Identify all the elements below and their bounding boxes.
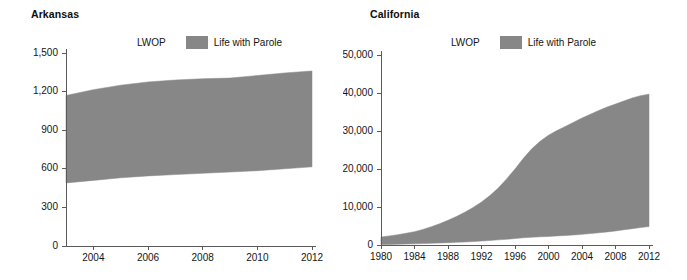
y-tick-label: 0: [367, 239, 373, 250]
x-tick-label: 2010: [246, 252, 269, 263]
chart-panel-california: California LWOP Life with Parole 010,000…: [343, 0, 687, 280]
chart-svg-arkansas: 03006009001,2001,50020042006200820102012: [0, 0, 343, 280]
y-tick-label: 20,000: [343, 163, 373, 174]
area-band-life-with-parole: [66, 71, 312, 183]
x-tick-label: 2000: [537, 251, 560, 262]
x-tick-label: 1988: [437, 251, 460, 262]
y-tick-label: 1,500: [33, 47, 58, 58]
plot-area-arkansas: 03006009001,2001,50020042006200820102012: [0, 0, 343, 280]
figure-root: Arkansas LWOP Life with Parole 030060090…: [0, 0, 687, 280]
x-tick-label: 2004: [571, 251, 594, 262]
y-tick-label: 40,000: [343, 87, 373, 98]
chart-svg-california: 010,00020,00030,00040,00050,000198019841…: [343, 0, 687, 280]
x-tick-label: 2012: [638, 251, 661, 262]
y-tick-label: 900: [41, 124, 58, 135]
y-tick-label: 10,000: [343, 201, 373, 212]
y-tick-label: 300: [41, 201, 58, 212]
area-band-life-with-parole: [381, 94, 649, 244]
x-tick-label: 1996: [504, 251, 527, 262]
x-tick-label: 1980: [370, 251, 393, 262]
y-tick-label: 0: [52, 240, 58, 251]
y-tick-label: 30,000: [343, 125, 373, 136]
x-tick-label: 2006: [137, 252, 160, 263]
x-tick-label: 2004: [82, 252, 105, 263]
chart-panel-arkansas: Arkansas LWOP Life with Parole 030060090…: [0, 0, 343, 280]
y-tick-label: 600: [41, 162, 58, 173]
x-tick-label: 2008: [192, 252, 215, 263]
plot-area-california: 010,00020,00030,00040,00050,000198019841…: [343, 0, 687, 280]
y-tick-label: 50,000: [343, 49, 373, 60]
x-tick-label: 2012: [301, 252, 324, 263]
x-tick-label: 1992: [470, 251, 493, 262]
x-tick-label: 2008: [604, 251, 627, 262]
y-tick-label: 1,200: [33, 85, 58, 96]
x-tick-label: 1984: [403, 251, 426, 262]
